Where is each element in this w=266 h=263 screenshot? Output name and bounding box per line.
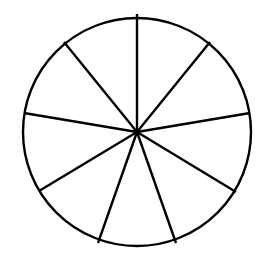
divided-circle-diagram [0,0,266,263]
